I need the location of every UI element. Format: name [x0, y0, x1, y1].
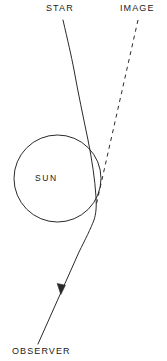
diagram-canvas	[0, 0, 167, 361]
observer-label: OBSERVER	[12, 346, 71, 356]
star-label: STAR	[46, 3, 74, 13]
ray-direction-arrowhead	[57, 284, 65, 295]
apparent-line-of-sight	[96, 20, 138, 206]
image-label: IMAGE	[120, 3, 155, 13]
sun-label: SUN	[35, 173, 58, 183]
light-deflection-diagram: STAR IMAGE SUN OBSERVER	[0, 0, 167, 361]
